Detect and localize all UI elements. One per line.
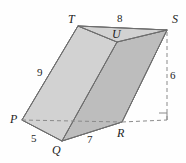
- vertex-label-T: T: [68, 13, 75, 25]
- measure-label-PQ: 5: [31, 133, 37, 144]
- vertex-label-U: U: [112, 28, 121, 40]
- measure-label-QR: 7: [87, 134, 93, 145]
- vertex-label-S: S: [172, 13, 178, 25]
- vertex-label-R: R: [117, 127, 124, 139]
- right-angle-marker: [159, 113, 167, 120]
- vertex-label-Q: Q: [52, 144, 61, 156]
- measure-label-PT: 9: [37, 67, 43, 78]
- measure-label-height: 6: [170, 70, 176, 81]
- measure-label-TS: 8: [117, 13, 123, 24]
- geometry-figure: P Q R T U S 8 9 6 5 7: [0, 0, 186, 163]
- vertex-label-P: P: [10, 113, 17, 125]
- prism-drawing: [0, 0, 186, 163]
- dashed-edge-R-foot: [122, 120, 167, 122]
